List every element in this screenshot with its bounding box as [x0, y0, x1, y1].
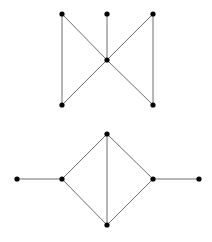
graph-node [104, 131, 109, 136]
graph-edge [62, 60, 107, 105]
graph-edge [62, 179, 107, 225]
graph-top [59, 11, 155, 107]
graph-edge [62, 14, 107, 60]
graph-node [150, 11, 155, 16]
graph-node [104, 11, 109, 16]
graph-node [150, 176, 155, 181]
graph-node [59, 176, 64, 181]
graph-node [59, 11, 64, 16]
graph-bottom [14, 131, 201, 227]
graph-node [14, 176, 19, 181]
graph-edge [107, 60, 153, 105]
graph-edge [107, 14, 153, 60]
graph-node [196, 176, 201, 181]
graph-edge [107, 134, 153, 179]
graph-edge [107, 179, 153, 225]
graph-node [104, 57, 109, 62]
graph-node [104, 222, 109, 227]
graph-node [150, 102, 155, 107]
graph-edge [62, 134, 107, 179]
graph-node [59, 102, 64, 107]
graph-diagram [0, 0, 212, 242]
